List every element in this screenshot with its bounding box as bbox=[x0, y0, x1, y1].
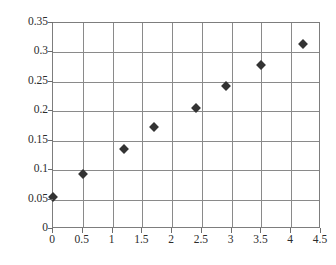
y-axis-tick-mark bbox=[48, 169, 53, 170]
data-point-marker bbox=[120, 144, 130, 154]
y-axis-tick-mark bbox=[48, 110, 53, 111]
x-axis-tick-label: 4.5 bbox=[300, 234, 336, 246]
gridline-horizontal bbox=[53, 141, 319, 142]
y-axis-tick-mark bbox=[48, 140, 53, 141]
gridline-horizontal bbox=[53, 111, 319, 112]
y-axis-tick-label: 0.3 bbox=[34, 45, 48, 57]
y-axis-tick-label: 0.2 bbox=[34, 104, 48, 116]
gridline-vertical bbox=[172, 23, 173, 227]
data-point-marker bbox=[149, 122, 159, 132]
x-axis-tick-mark bbox=[231, 228, 232, 233]
gridline-horizontal bbox=[53, 200, 319, 201]
x-axis-tick-mark bbox=[171, 228, 172, 233]
gridline-vertical bbox=[261, 23, 262, 227]
y-axis-tick-labels: 00.050.10.150.20.250.30.35 bbox=[0, 0, 48, 265]
y-axis-tick-mark bbox=[48, 199, 53, 200]
gridline-vertical bbox=[142, 23, 143, 227]
x-axis-tick-mark bbox=[290, 228, 291, 233]
y-axis-tick-label: 0.35 bbox=[28, 16, 48, 28]
x-axis-tick-mark bbox=[201, 228, 202, 233]
y-axis-tick-label: 0.25 bbox=[28, 75, 48, 87]
plot-area bbox=[52, 22, 320, 228]
gridline-vertical bbox=[202, 23, 203, 227]
scatter-chart: 00.050.10.150.20.250.30.35 00.511.522.53… bbox=[0, 0, 336, 265]
gridline-vertical bbox=[232, 23, 233, 227]
gridline-horizontal bbox=[53, 82, 319, 83]
data-point-marker bbox=[298, 39, 308, 49]
x-axis-tick-mark bbox=[260, 228, 261, 233]
x-axis-tick-mark bbox=[52, 228, 53, 233]
y-axis-tick-label: 0.05 bbox=[28, 193, 48, 205]
y-axis-tick-label: 0.1 bbox=[34, 163, 48, 175]
x-axis-tick-mark bbox=[141, 228, 142, 233]
x-axis-tick-mark bbox=[320, 228, 321, 233]
y-axis-tick-mark bbox=[48, 81, 53, 82]
y-axis-tick-label: 0.15 bbox=[28, 134, 48, 146]
y-axis-tick-mark bbox=[48, 51, 53, 52]
y-axis-tick-mark bbox=[48, 22, 53, 23]
gridline-horizontal bbox=[53, 52, 319, 53]
data-point-marker bbox=[256, 60, 266, 70]
gridline-horizontal bbox=[53, 170, 319, 171]
gridline-vertical bbox=[83, 23, 84, 227]
x-axis-tick-mark bbox=[82, 228, 83, 233]
x-axis-tick-labels: 00.511.522.533.544.5 bbox=[0, 234, 336, 254]
gridline-vertical bbox=[113, 23, 114, 227]
gridline-vertical bbox=[291, 23, 292, 227]
x-axis-tick-mark bbox=[112, 228, 113, 233]
